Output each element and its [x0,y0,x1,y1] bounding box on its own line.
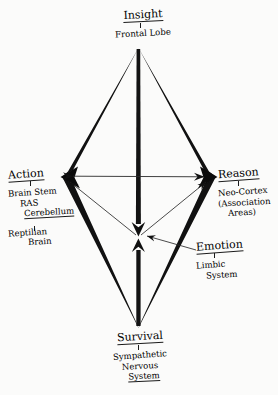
survival-title: Survival [117,329,164,345]
node-label-emotion[interactable]: Emotion Limbic System [196,238,272,279]
node-label-reason[interactable]: Reason Neo-Cortex (Association Areas) [218,166,278,218]
action-title: Action [8,166,45,182]
emotion-sublabel-2: System [206,268,238,280]
diagram-canvas: Insight Frontal Lobe Action Brain Stem R… [0,0,278,395]
emotion-pointer-line [147,236,196,250]
vertical-axis-line [132,49,146,326]
node-label-survival[interactable]: Survival Sympathetic Nervous System [86,330,194,382]
emotion-tick [214,253,215,258]
reason-title: Reason [218,165,260,182]
action-sublabel-5: Brain [28,236,52,247]
insight-title: Insight [123,7,163,23]
action-sublabel-2: RAS [20,197,39,208]
action-sublabel-3: Cerebellum [24,206,75,220]
emotion-title: Emotion [196,237,244,254]
node-label-action[interactable]: Action Brain Stem RAS Cerebellum Reptili… [8,166,86,247]
action-tick [30,181,31,186]
reason-tick [238,181,239,186]
node-label-insight[interactable]: Insight Frontal Lobe [88,8,198,39]
survival-sublabel-3: System [128,370,160,383]
reason-sublabel-3: Areas) [228,207,256,218]
horizontal-axis-line [73,176,204,177]
insight-sublabel: Frontal Lobe [115,27,171,40]
